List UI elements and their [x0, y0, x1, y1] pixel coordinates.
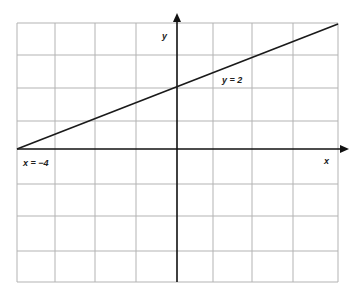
x-intercept-label: x = −4 [23, 158, 49, 168]
x-axis-label: x [324, 156, 329, 166]
y-axis-label: y [162, 31, 167, 41]
y-axis [173, 13, 181, 282]
coordinate-graph [0, 0, 363, 298]
y-axis-arrow-icon [173, 13, 181, 22]
x-axis-arrow-icon [340, 145, 349, 153]
y-intercept-label: y = 2 [222, 75, 242, 85]
x-axis [17, 145, 349, 153]
